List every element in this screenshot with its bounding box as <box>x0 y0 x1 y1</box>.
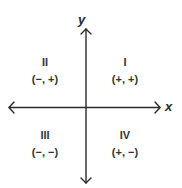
quadrant-signs: (−, −) <box>15 146 75 158</box>
quadrant-numeral: III <box>15 129 75 141</box>
coordinate-plane <box>0 0 182 188</box>
quadrant-numeral: I <box>95 56 155 68</box>
quadrant-signs: (+, +) <box>95 73 155 85</box>
y-axis-label: y <box>78 13 85 26</box>
quadrant-signs: (−, +) <box>15 73 75 85</box>
quadrant-3: III (−, −) <box>15 129 75 158</box>
quadrant-numeral: II <box>15 56 75 68</box>
quadrant-4: IV (+, −) <box>95 129 155 158</box>
x-axis-label: x <box>165 100 172 113</box>
quadrant-1: I (+, +) <box>95 56 155 85</box>
quadrant-numeral: IV <box>95 129 155 141</box>
quadrant-2: II (−, +) <box>15 56 75 85</box>
quadrant-signs: (+, −) <box>95 146 155 158</box>
